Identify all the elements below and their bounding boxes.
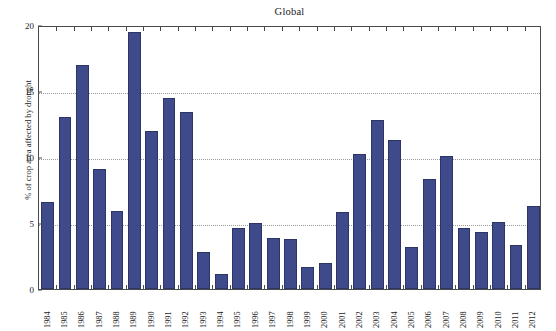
- y-tick-label-10: 10: [25, 153, 34, 163]
- bar-1990: [145, 131, 158, 289]
- x-tick-top-1997: [264, 27, 265, 31]
- x-tick-label-2006: 2006: [424, 311, 433, 328]
- x-tick-top-1991: [160, 27, 161, 31]
- x-tick-label-2010: 2010: [494, 311, 503, 328]
- x-tick-bottom-1990: [143, 285, 144, 289]
- x-tick-top-2006: [421, 27, 422, 31]
- bar-2008: [458, 228, 471, 289]
- x-tick-top-1995: [230, 27, 231, 31]
- x-tick-bottom-2004: [386, 285, 387, 289]
- bar-1991: [163, 98, 176, 289]
- bar-2009: [475, 232, 488, 289]
- x-tick-bottom-1999: [299, 285, 300, 289]
- x-tick-label-1997: 1997: [268, 311, 277, 328]
- x-tick-top-2009: [473, 27, 474, 31]
- y-tick-label-20: 20: [25, 21, 34, 31]
- bar-1989: [128, 32, 141, 289]
- x-tick-top-2000: [317, 27, 318, 31]
- x-tick-bottom-2006: [421, 285, 422, 289]
- y-tick-label-5: 5: [30, 219, 35, 229]
- bar-2006: [423, 179, 436, 289]
- x-tick-top-1990: [143, 27, 144, 31]
- x-tick-label-2009: 2009: [476, 311, 485, 328]
- x-tick-bottom-2001: [334, 285, 335, 289]
- y-tick-mark-5: [38, 224, 42, 225]
- x-tick-bottom-1985: [56, 285, 57, 289]
- x-tick-label-1987: 1987: [95, 311, 104, 328]
- x-tick-bottom-1986: [74, 285, 75, 289]
- x-tick-bottom-1997: [264, 285, 265, 289]
- x-tick-top-1998: [282, 27, 283, 31]
- x-tick-top-2003: [369, 27, 370, 31]
- bar-2004: [388, 140, 401, 289]
- x-tick-label-2004: 2004: [390, 311, 399, 328]
- x-tick-bottom-2002: [351, 285, 352, 289]
- x-tick-label-1988: 1988: [112, 311, 121, 328]
- x-tick-top-1987: [91, 27, 92, 31]
- x-tick-label-1985: 1985: [60, 311, 69, 328]
- y-tick-mark-0: [38, 290, 42, 291]
- x-tick-label-1986: 1986: [77, 311, 86, 328]
- x-tick-top-2007: [438, 27, 439, 31]
- bar-2001: [336, 212, 349, 289]
- y-tick-mark-10: [38, 158, 42, 159]
- x-tick-bottom-2011: [507, 285, 508, 289]
- x-tick-label-2012: 2012: [528, 311, 537, 328]
- x-tick-bottom-1994: [212, 285, 213, 289]
- bar-2007: [440, 156, 453, 289]
- x-tick-label-1991: 1991: [164, 311, 173, 328]
- x-tick-label-1999: 1999: [303, 311, 312, 328]
- x-tick-label-1990: 1990: [147, 311, 156, 328]
- x-tick-bottom-2010: [490, 285, 491, 289]
- chart-figure: Global % of crop area affected by drough…: [0, 0, 556, 331]
- bar-1993: [197, 252, 210, 289]
- x-tick-label-1984: 1984: [43, 311, 52, 328]
- y-tick-label-0: 0: [30, 285, 35, 295]
- x-tick-bottom-2012: [525, 285, 526, 289]
- x-tick-bottom-2000: [317, 285, 318, 289]
- x-axis-tick-labels: 1984198519861987198819891990199119921993…: [38, 292, 541, 331]
- bar-1986: [76, 65, 89, 289]
- x-tick-top-1992: [178, 27, 179, 31]
- bar-1996: [249, 223, 262, 289]
- bar-2012: [527, 206, 540, 289]
- bar-1992: [180, 112, 193, 289]
- x-tick-top-1986: [74, 27, 75, 31]
- bar-1984: [41, 202, 54, 289]
- bar-1988: [111, 211, 124, 289]
- gridline-10: [39, 159, 540, 160]
- x-tick-bottom-1991: [160, 285, 161, 289]
- x-tick-top-1996: [247, 27, 248, 31]
- x-tick-label-2007: 2007: [442, 311, 451, 328]
- x-tick-bottom-2007: [438, 285, 439, 289]
- x-tick-label-2005: 2005: [407, 311, 416, 328]
- x-tick-bottom-2005: [403, 285, 404, 289]
- x-tick-top-2010: [490, 27, 491, 31]
- x-tick-label-1993: 1993: [199, 311, 208, 328]
- y-axis-label: % of crop area affected by drought: [23, 50, 33, 230]
- x-tick-bottom-1992: [178, 285, 179, 289]
- x-tick-bottom-1995: [230, 285, 231, 289]
- x-tick-label-1992: 1992: [181, 311, 190, 328]
- x-tick-label-2003: 2003: [372, 311, 381, 328]
- x-tick-label-2011: 2011: [511, 312, 520, 328]
- x-tick-top-2002: [351, 27, 352, 31]
- bar-1994: [215, 274, 228, 289]
- x-tick-top-2005: [403, 27, 404, 31]
- bar-2010: [492, 222, 505, 289]
- x-tick-top-1988: [108, 27, 109, 31]
- x-tick-top-1989: [126, 27, 127, 31]
- x-tick-label-2000: 2000: [320, 311, 329, 328]
- x-tick-label-1996: 1996: [251, 311, 260, 328]
- bar-2002: [353, 154, 366, 289]
- x-tick-bottom-1993: [195, 285, 196, 289]
- x-tick-bottom-1987: [91, 285, 92, 289]
- x-tick-top-1994: [212, 27, 213, 31]
- x-tick-top-1999: [299, 27, 300, 31]
- bar-2005: [405, 247, 418, 289]
- x-tick-label-1998: 1998: [286, 311, 295, 328]
- bar-1998: [284, 239, 297, 289]
- bar-1995: [232, 228, 245, 289]
- bar-1987: [93, 169, 106, 289]
- x-tick-label-2008: 2008: [459, 311, 468, 328]
